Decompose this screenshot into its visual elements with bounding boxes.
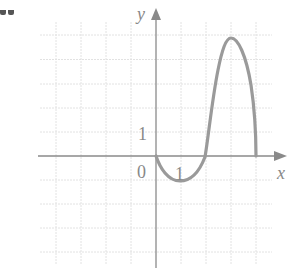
y-axis-label: y [135,4,145,24]
x-tick-label-1: 1 [175,164,184,184]
function-graph: y x 0 1 1 [0,0,294,273]
x-axis-arrow-icon [274,151,287,161]
origin-label: 0 [137,162,146,182]
y-axis-arrow-icon [151,8,161,20]
x-axis-label: x [276,163,285,183]
y-tick-label-1: 1 [138,124,147,144]
